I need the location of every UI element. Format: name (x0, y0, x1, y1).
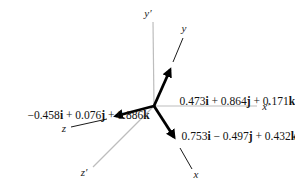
y-axis-line (173, 38, 183, 62)
z-unit-vector-label: −0.458i + 0.076j + 0.886k (16, 96, 150, 135)
y-prime-axis-line (153, 22, 154, 106)
rotated-axes-figure: y′ x′ z′ y x z 0.473i + 0.864j + 0.171k … (0, 0, 295, 191)
y-axis-label: y (182, 23, 187, 34)
k-unit-symbol: k (143, 109, 149, 121)
y-unit-vector-label: 0.473i + 0.864j + 0.171k (168, 82, 295, 121)
x-vector-coefficient-k: + 0.432 (253, 130, 291, 142)
x-unit-vector-label: 0.753i − 0.497j + 0.432k (170, 117, 295, 156)
z-vector-coefficient-j: + 0.076 (63, 109, 101, 121)
y-vector-coefficient-j: + 0.864 (209, 95, 247, 107)
k-unit-symbol: k (289, 95, 295, 107)
x-vector-coefficient-i: 0.753 (182, 130, 208, 142)
x-vector-coefficient-j: − 0.497 (211, 130, 249, 142)
z-vector-coefficient-i: −0.458 (28, 109, 60, 121)
z-vector-coefficient-k: + 0.886 (105, 109, 143, 121)
z-prime-axis-label: z′ (81, 167, 88, 178)
k-unit-symbol: k (291, 130, 295, 142)
x-axis-label: x (194, 169, 199, 180)
y-vector-coefficient-k: + 0.171 (251, 95, 289, 107)
y-prime-axis-label: y′ (144, 8, 151, 19)
y-vector-coefficient-i: 0.473 (180, 95, 206, 107)
